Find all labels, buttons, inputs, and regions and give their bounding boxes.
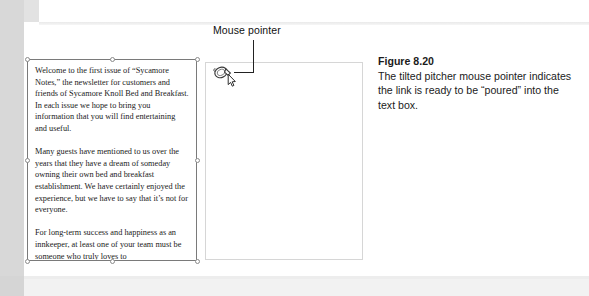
figure-caption: Figure 8.20 The tilted pitcher mouse poi… bbox=[378, 54, 578, 112]
scan-edge-left bbox=[0, 0, 24, 296]
scan-edge-left-upper bbox=[24, 0, 39, 22]
figure-caption-title: Figure 8.20 bbox=[378, 54, 578, 69]
figure-screenshot: Welcome to the first issue of “Sycamore … bbox=[0, 0, 589, 296]
scan-edge-bottom-corner bbox=[0, 276, 24, 296]
selection-handle-top-center[interactable] bbox=[110, 57, 115, 62]
selection-handle-bottom-right[interactable] bbox=[195, 259, 200, 264]
callout-label-mouse-pointer: Mouse pointer bbox=[213, 24, 281, 36]
callout-leader-line-vertical bbox=[253, 40, 254, 73]
tilted-pitcher-pointer-icon bbox=[212, 64, 238, 88]
selection-handle-bottom-left[interactable] bbox=[25, 259, 30, 264]
selection-handle-top-left[interactable] bbox=[25, 57, 30, 62]
selection-handle-middle-left[interactable] bbox=[25, 158, 30, 163]
newsletter-text-box-body: Welcome to the first issue of “Sycamore … bbox=[28, 60, 196, 261]
selection-handle-middle-right[interactable] bbox=[195, 158, 200, 163]
newsletter-text-box[interactable]: Welcome to the first issue of “Sycamore … bbox=[27, 59, 197, 261]
newsletter-paragraph-2: Many guests have mentioned to us over th… bbox=[35, 146, 189, 216]
empty-destination-text-box[interactable] bbox=[205, 62, 363, 260]
newsletter-paragraph-3: For long-term success and happiness as a… bbox=[35, 227, 189, 261]
newsletter-paragraph-1: Welcome to the first issue of “Sycamore … bbox=[35, 65, 189, 135]
selection-handle-top-right[interactable] bbox=[195, 57, 200, 62]
scan-edge-bottom bbox=[0, 279, 589, 296]
selection-handle-bottom-center[interactable] bbox=[110, 259, 115, 264]
figure-caption-body: The tilted pitcher mouse pointer indicat… bbox=[378, 69, 578, 113]
